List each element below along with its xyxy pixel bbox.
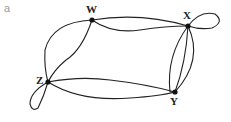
vertex-y — [172, 89, 177, 94]
graph-canvas — [0, 0, 231, 122]
graph-diagram: a W X Y Z — [0, 0, 231, 122]
edge-z-y-2 — [48, 82, 175, 99]
vertex-label-x: X — [183, 9, 191, 21]
vertex-label-y: Y — [170, 95, 178, 107]
edge-w-z-1 — [45, 20, 92, 82]
edge-w-x-2 — [92, 20, 188, 31]
vertex-x — [185, 23, 190, 28]
edge-w-x-1 — [92, 17, 188, 26]
vertex-w — [89, 17, 94, 22]
vertex-label-z: Z — [36, 74, 43, 86]
vertex-z — [45, 79, 50, 84]
loop-z — [30, 82, 48, 109]
loop-x — [188, 13, 219, 28]
edge-w-z-2 — [48, 20, 92, 82]
edge-z-y-1 — [48, 78, 175, 92]
vertex-label-w: W — [86, 3, 97, 15]
